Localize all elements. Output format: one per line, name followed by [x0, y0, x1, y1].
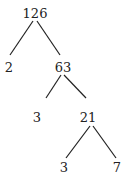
edge-63-21: [64, 75, 86, 98]
node-7: 7: [113, 161, 121, 175]
edge-126-63: [37, 21, 60, 55]
node-63: 63: [55, 61, 72, 75]
edge-21-3: [66, 126, 90, 158]
edge-63-3: [46, 75, 61, 98]
node-2: 2: [5, 61, 13, 75]
edge-21-7: [93, 126, 116, 158]
node-126: 126: [23, 7, 48, 21]
node-3-leaf: 3: [60, 161, 68, 175]
node-3: 3: [33, 111, 41, 125]
edge-126-2: [10, 21, 33, 55]
node-21: 21: [80, 111, 97, 125]
